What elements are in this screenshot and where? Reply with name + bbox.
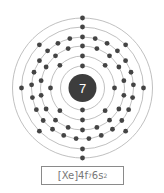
electron — [37, 42, 42, 47]
electron — [57, 63, 62, 68]
electron — [112, 86, 117, 91]
electron — [121, 93, 126, 98]
electron — [130, 95, 135, 100]
electron — [37, 129, 42, 134]
electron — [48, 86, 53, 91]
electron — [80, 64, 85, 69]
electron — [141, 86, 146, 91]
electron — [80, 128, 85, 133]
electron — [94, 125, 99, 130]
atom-diagram: 7 — [0, 0, 164, 165]
electron — [129, 70, 134, 75]
electron — [57, 108, 62, 113]
electron — [103, 108, 108, 113]
electron — [94, 46, 99, 51]
electron — [53, 118, 58, 123]
electron — [80, 156, 85, 161]
electron — [116, 107, 121, 112]
electron — [44, 107, 49, 112]
electron — [74, 136, 79, 141]
electron — [19, 86, 24, 91]
electron — [80, 35, 85, 40]
config-core: [Xe] — [58, 170, 78, 181]
electron — [123, 129, 128, 134]
electron — [80, 54, 85, 59]
electron — [45, 48, 50, 53]
electron — [80, 147, 85, 152]
electron — [32, 70, 37, 75]
electron-configuration: [Xe]4f76s2 — [41, 166, 124, 185]
electron — [80, 16, 85, 21]
config-6s-exponent: 2 — [103, 172, 107, 179]
electron — [131, 82, 136, 87]
electron — [80, 108, 85, 113]
electron — [126, 107, 131, 112]
electron — [30, 95, 35, 100]
electron — [29, 82, 34, 87]
electron — [67, 36, 72, 41]
electron — [80, 25, 85, 30]
config-4f: 4f — [78, 170, 88, 181]
config-6s: 6s — [92, 170, 104, 181]
electron — [99, 133, 104, 138]
electron — [44, 65, 49, 70]
electron — [107, 118, 112, 123]
electron — [41, 118, 46, 123]
electron — [61, 133, 66, 138]
electron — [53, 53, 58, 58]
electron — [107, 53, 112, 58]
electron — [56, 41, 61, 46]
electron — [66, 125, 71, 130]
electron — [66, 46, 71, 51]
electron — [50, 127, 55, 132]
electron — [123, 58, 128, 63]
electron — [123, 42, 128, 47]
electron — [110, 127, 115, 132]
electron — [105, 41, 110, 46]
electron — [93, 36, 98, 41]
electron — [80, 44, 85, 49]
electron — [37, 58, 42, 63]
electron — [115, 48, 120, 53]
electron — [34, 107, 39, 112]
electron — [39, 93, 44, 98]
electron — [116, 65, 121, 70]
electron — [119, 118, 124, 123]
electron — [39, 78, 44, 83]
electron — [80, 118, 85, 123]
electron — [121, 78, 126, 83]
nucleus-label: 7 — [79, 81, 86, 96]
electron — [103, 63, 108, 68]
electron — [86, 136, 91, 141]
